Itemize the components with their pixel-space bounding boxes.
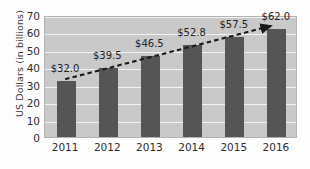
bar-2014	[183, 45, 202, 137]
bar-2013	[141, 56, 160, 137]
bar-2011	[57, 81, 76, 137]
x-axis-tick-label-2015: 2015	[220, 141, 247, 153]
y-axis-tick-labels: 010203040506070	[14, 0, 40, 169]
gridline	[45, 87, 296, 88]
bar-2015	[225, 37, 244, 137]
value-label-2011: $32.0	[51, 63, 80, 74]
x-axis-tick-label-2016: 2016	[263, 141, 290, 153]
y-axis-tick-label: 70	[14, 10, 40, 22]
bar-chart: US Dollars (in billions) 010203040506070…	[0, 0, 310, 169]
y-axis-tick-label: 50	[14, 45, 40, 57]
bar-2012	[99, 68, 118, 137]
gridline	[45, 104, 296, 105]
plot-area	[44, 16, 297, 138]
gridline	[45, 34, 296, 35]
value-label-2013: $46.5	[135, 38, 164, 49]
gridline	[45, 122, 296, 123]
value-label-2014: $52.8	[177, 27, 206, 38]
y-axis-tick-label: 20	[14, 97, 40, 109]
x-axis-tick-label-2011: 2011	[52, 141, 79, 153]
x-axis-tick-label-2013: 2013	[136, 141, 163, 153]
x-axis-tick-label-2012: 2012	[94, 141, 121, 153]
y-axis-tick-label: 10	[14, 115, 40, 127]
x-axis-tick-labels: 201120122013201420152016	[44, 141, 297, 159]
bar-2016	[267, 29, 286, 137]
gridline	[45, 69, 296, 70]
value-label-2015: $57.5	[219, 19, 248, 30]
y-axis-tick-label: 30	[14, 80, 40, 92]
y-axis-tick-label: 40	[14, 62, 40, 74]
y-axis-tick-label: 60	[14, 27, 40, 39]
gridline	[45, 52, 296, 53]
value-label-2016: $62.0	[262, 11, 291, 22]
x-axis-tick-label-2014: 2014	[178, 141, 205, 153]
value-label-2012: $39.5	[93, 50, 122, 61]
gridline	[45, 17, 296, 18]
y-axis-tick-label: 0	[14, 132, 40, 144]
